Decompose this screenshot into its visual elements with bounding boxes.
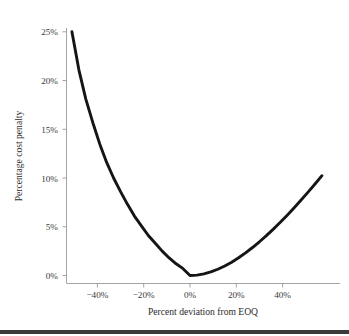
y-tick-label-0: 0% <box>46 271 59 281</box>
x-tick-label-40: 40% <box>274 290 291 300</box>
chart-figure: 0% 5% 10% 15% 20% 25% −40% −20% 0% 20% 4… <box>0 0 349 336</box>
y-tick-label-20: 20% <box>41 76 58 86</box>
chart-background <box>0 0 349 336</box>
x-tick-label-neg20: −20% <box>133 290 155 300</box>
x-tick-label-20: 20% <box>228 290 245 300</box>
y-tick-label-5: 5% <box>46 222 59 232</box>
eoq-cost-penalty-chart: 0% 5% 10% 15% 20% 25% −40% −20% 0% 20% 4… <box>0 0 349 336</box>
x-tick-label-0: 0% <box>184 290 197 300</box>
y-axis-title: Percentage cost penalty <box>13 111 24 202</box>
footer-bar <box>0 330 349 334</box>
x-tick-label-neg40: −40% <box>86 290 108 300</box>
y-tick-label-25: 25% <box>41 27 58 37</box>
x-axis-title: Percent deviation from EOQ <box>148 306 258 317</box>
y-tick-label-15: 15% <box>41 125 58 135</box>
y-tick-label-10: 10% <box>41 174 58 184</box>
